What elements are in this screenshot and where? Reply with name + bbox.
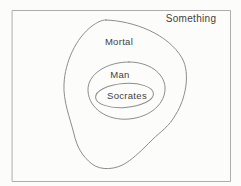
euler-diagram: Something Mortal Man Socrates [0, 0, 241, 186]
label-something: Something [166, 13, 217, 24]
label-man: Man [110, 69, 129, 80]
label-mortal: Mortal [105, 36, 133, 47]
label-socrates: Socrates [107, 90, 147, 101]
euler-diagram-canvas: Something Mortal Man Socrates [0, 0, 241, 186]
